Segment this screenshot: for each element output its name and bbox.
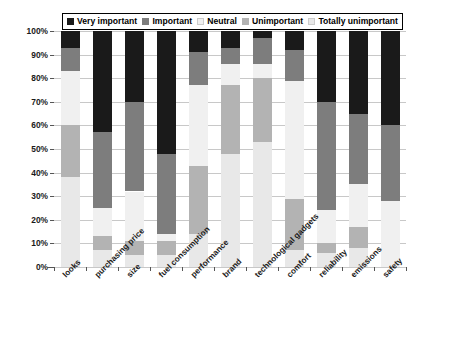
y-axis-tick-label: 30% (31, 191, 48, 201)
bar-segment (349, 114, 368, 185)
y-axis-tick-label: 10% (31, 238, 48, 248)
bar-segment (157, 31, 176, 154)
bar-segment (93, 132, 112, 208)
bar-column (157, 31, 176, 267)
bar-segment (221, 31, 240, 48)
legend-item: Unimportant (242, 17, 303, 26)
legend-item-label: Totally unimportant (318, 17, 398, 26)
bar-segment (253, 142, 272, 267)
x-axis-tick-mark (406, 267, 407, 271)
y-axis-tick-label: 60% (31, 120, 48, 130)
bar-segment (125, 31, 144, 102)
bar-column (61, 31, 80, 267)
x-axis-tick-mark (54, 267, 55, 271)
legend-item-label: Important (152, 17, 192, 26)
bar-segment (285, 31, 304, 50)
stacked-bar-chart: Very importantImportantNeutralUnimportan… (0, 0, 462, 344)
y-axis-tick-mark (50, 125, 54, 126)
y-axis-tick-label: 80% (31, 73, 48, 83)
legend-swatch-icon (67, 18, 74, 25)
y-axis-tick-mark (50, 173, 54, 174)
y-axis-tick-mark (50, 220, 54, 221)
y-axis-tick-mark (50, 55, 54, 56)
bar-segment (221, 64, 240, 85)
legend-item: Very important (67, 17, 137, 26)
y-axis-labels: 0%10%20%30%40%50%60%70%80%90%100% (0, 31, 48, 267)
bar-segment (317, 210, 336, 243)
y-axis-tick-mark (50, 31, 54, 32)
bar-segment (189, 85, 208, 165)
y-axis-tick-mark (50, 149, 54, 150)
bar-segment (317, 102, 336, 211)
y-axis-tick-mark (50, 78, 54, 79)
y-axis-tick-mark (50, 102, 54, 103)
bar-segment (253, 31, 272, 38)
legend-item-label: Unimportant (252, 17, 303, 26)
x-axis-tick-mark (278, 267, 279, 271)
x-axis-tick-mark (246, 267, 247, 271)
chart-legend: Very importantImportantNeutralUnimportan… (62, 13, 403, 30)
bar-segment (381, 125, 400, 201)
bar-segment (253, 38, 272, 64)
bar-segment (253, 78, 272, 142)
bar-segment (125, 102, 144, 192)
y-axis-tick-label: 20% (31, 215, 48, 225)
x-axis-tick-mark (86, 267, 87, 271)
bar-segment (221, 48, 240, 65)
bar-segment (157, 241, 176, 255)
bar-segment (189, 52, 208, 85)
y-axis-tick-label: 100% (27, 26, 48, 36)
bar-segment (253, 64, 272, 78)
bar-segment (349, 184, 368, 226)
bar-segment (61, 177, 80, 267)
bar-segment (221, 85, 240, 153)
bar-column (381, 31, 400, 267)
x-axis-tick-mark (150, 267, 151, 271)
bar-segment (93, 208, 112, 236)
x-axis-tick-mark (342, 267, 343, 271)
bar-segment (157, 234, 176, 241)
legend-item-label: Neutral (207, 17, 237, 26)
bar-segment (61, 125, 80, 177)
y-axis-tick-mark (50, 243, 54, 244)
y-axis-tick-label: 90% (31, 50, 48, 60)
y-axis-tick-label: 70% (31, 97, 48, 107)
x-axis-tick-mark (118, 267, 119, 271)
bar-segment (93, 236, 112, 250)
bar-segment (61, 31, 80, 48)
bar-segment (189, 31, 208, 52)
plot-area (54, 31, 406, 267)
bar-segment (381, 31, 400, 125)
x-axis-tick-mark (374, 267, 375, 271)
legend-item: Neutral (197, 17, 237, 26)
y-axis-tick-label: 50% (31, 144, 48, 154)
bar-segment (61, 71, 80, 125)
bar-segment (93, 31, 112, 132)
legend-swatch-icon (197, 18, 204, 25)
legend-item: Important (142, 17, 192, 26)
x-axis-tick-mark (310, 267, 311, 271)
bar-segment (317, 243, 336, 252)
legend-item-label: Very important (77, 17, 137, 26)
bar-column (349, 31, 368, 267)
legend-swatch-icon (142, 18, 149, 25)
legend-swatch-icon (308, 18, 315, 25)
y-axis-tick-label: 40% (31, 168, 48, 178)
y-axis-tick-mark (50, 196, 54, 197)
bar-column (317, 31, 336, 267)
bar-column (93, 31, 112, 267)
bar-segment (349, 31, 368, 114)
x-axis-tick-mark (214, 267, 215, 271)
bar-column (221, 31, 240, 267)
bar-segment (285, 50, 304, 81)
bar-segment (317, 31, 336, 102)
legend-swatch-icon (242, 18, 249, 25)
bar-segment (349, 227, 368, 248)
bar-segment (285, 81, 304, 199)
x-axis-tick-mark (182, 267, 183, 271)
bar-column (253, 31, 272, 267)
legend-item: Totally unimportant (308, 17, 398, 26)
bar-segment (61, 48, 80, 72)
plot-area-wrapper (54, 31, 406, 267)
bar-segment (157, 154, 176, 234)
